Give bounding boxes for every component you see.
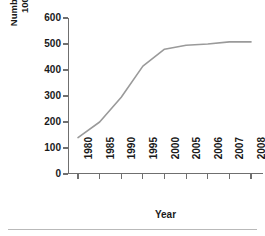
y-axis-tick-label: 0: [27, 169, 61, 179]
x-axis-tick: [250, 174, 251, 179]
x-axis-tick: [99, 174, 100, 179]
x-axis-tick: [142, 174, 143, 179]
y-axis-tick-label: 300: [27, 91, 61, 101]
x-axis-title: Year: [68, 209, 263, 221]
x-axis-tick: [77, 174, 78, 179]
x-axis-tick: [186, 174, 187, 179]
plot-area: 0100200300400500600 19801985199019952000…: [68, 18, 263, 174]
series-line-layer: [68, 18, 263, 174]
footer-divider: [8, 229, 257, 230]
y-axis-tick-label: 100: [27, 143, 61, 153]
x-axis-tick: [164, 174, 165, 179]
x-axis-tick: [229, 174, 230, 179]
y-axis-tick-label: 600: [27, 13, 61, 23]
series-line-offenders: [78, 42, 251, 138]
y-axis-tick-label: 400: [27, 65, 61, 75]
line-chart-figure: Number of Offenders per 100,000 Populati…: [0, 0, 265, 236]
y-axis-tick-label: 200: [27, 117, 61, 127]
x-axis-tick: [207, 174, 208, 179]
x-axis-tick: [121, 174, 122, 179]
y-axis-tick-label: 500: [27, 39, 61, 49]
